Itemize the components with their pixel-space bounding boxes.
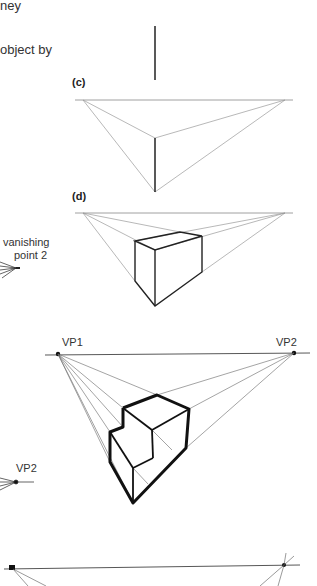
- perspective-drawings: [0, 0, 317, 586]
- vanishing-point-2-mark: [0, 262, 20, 278]
- stair-perspective-drawing: [45, 351, 310, 503]
- vp2-left-mark: [0, 478, 34, 490]
- panel-c-drawing: [75, 100, 293, 192]
- panel-d-drawing: [75, 213, 293, 306]
- bottom-horizon-drawing: [4, 553, 300, 586]
